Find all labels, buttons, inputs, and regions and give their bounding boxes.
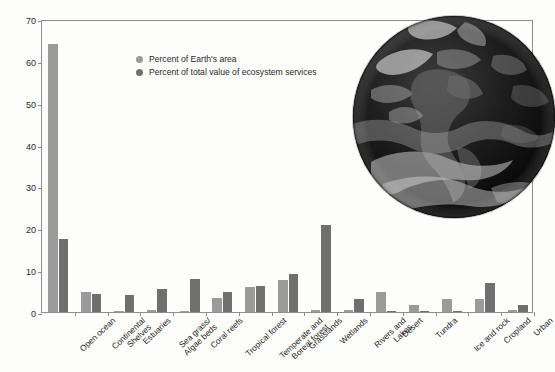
bar-value: [420, 311, 430, 312]
legend-swatch-icon: [136, 56, 143, 63]
bar-area: [212, 298, 222, 312]
bar-area: [81, 292, 91, 313]
y-tick-70: 70: [26, 16, 42, 26]
y-tick-60: 60: [26, 58, 42, 68]
bar-value: [256, 286, 266, 312]
x-axis-labels: Open oceanContinentalShelvesEstuariesSea…: [41, 316, 533, 372]
earth-photo: [353, 16, 555, 218]
legend-label: Percent of total value of ecosystem serv…: [149, 67, 317, 77]
bar-area: [508, 310, 518, 313]
bar-area: [311, 310, 321, 313]
bar-group: [81, 21, 101, 312]
bar-group: [114, 21, 134, 312]
bar-value: [59, 239, 69, 312]
chart-figure: PERCENT 010203040506070 Open oceanContin…: [0, 0, 555, 372]
bar-value: [190, 279, 200, 312]
bar-value: [518, 305, 528, 312]
bar-value: [289, 274, 299, 312]
bar-area: [147, 310, 157, 313]
bar-area: [409, 305, 419, 312]
bar-value: [223, 292, 233, 313]
y-tick-40: 40: [26, 142, 42, 152]
bar-area: [475, 299, 485, 312]
bar-area: [180, 311, 190, 312]
legend-item-0: Percent of Earth's area: [136, 54, 317, 64]
bar-value: [157, 289, 167, 312]
bar-area: [344, 310, 354, 312]
bar-area: [278, 280, 288, 312]
bar-area: [245, 287, 255, 312]
legend-label: Percent of Earth's area: [149, 54, 237, 64]
x-label-tundra: Tundra: [434, 316, 459, 341]
bar-value: [387, 311, 397, 312]
y-tick-20: 20: [26, 225, 42, 235]
bar-value: [321, 225, 331, 312]
bar-group: [344, 21, 364, 312]
bar-area: [376, 292, 386, 312]
bar-area: [442, 299, 452, 312]
x-tick: [534, 312, 535, 316]
y-tick-50: 50: [26, 100, 42, 110]
x-label-urban: Urban: [532, 316, 555, 338]
y-tick-30: 30: [26, 183, 42, 193]
legend-swatch-icon: [136, 69, 143, 76]
bar-area: [114, 311, 124, 312]
bar-value: [354, 299, 364, 312]
bar-value: [453, 311, 463, 312]
x-label-open-ocean: Open ocean: [79, 316, 118, 354]
bar-value: [485, 283, 495, 312]
chart-legend: Percent of Earth's areaPercent of total …: [136, 54, 317, 80]
bar-value: [125, 295, 135, 312]
y-tick-10: 10: [26, 267, 42, 277]
bar-group: [48, 21, 68, 312]
legend-item-1: Percent of total value of ecosystem serv…: [136, 67, 317, 77]
bar-area: [48, 44, 58, 312]
bar-value: [92, 294, 102, 312]
